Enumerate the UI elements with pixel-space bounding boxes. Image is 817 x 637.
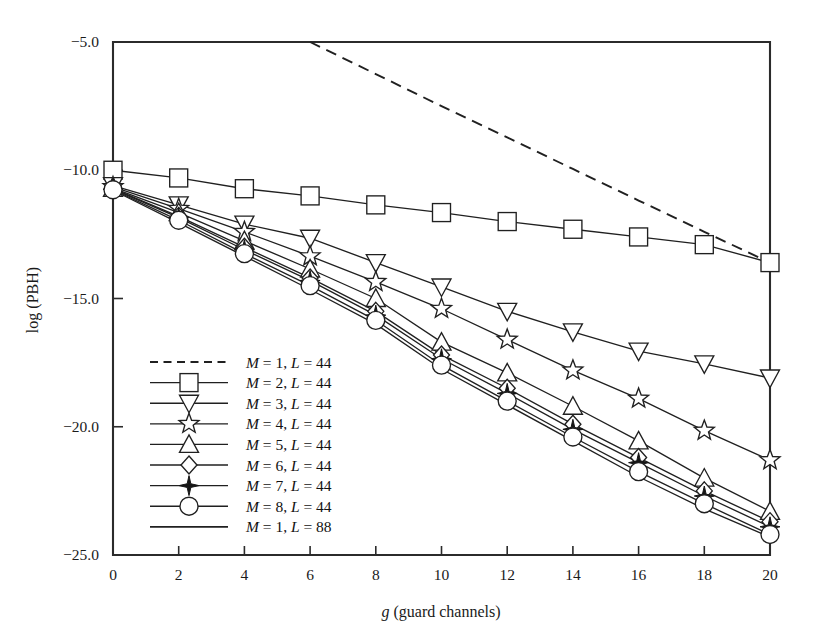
data-point-marker — [498, 392, 516, 410]
data-point-marker — [180, 497, 198, 515]
data-point-marker — [761, 525, 779, 543]
data-point-marker — [498, 213, 516, 231]
data-point-marker — [367, 196, 385, 214]
x-axis-tick-labels: 02468101214161820 — [109, 566, 778, 583]
data-point-marker — [497, 329, 517, 348]
data-point-marker — [629, 388, 649, 407]
x-tick-label: 0 — [109, 566, 117, 583]
data-point-marker — [181, 456, 197, 474]
data-point-marker — [695, 495, 713, 513]
data-point-marker — [180, 395, 199, 413]
legend-item: M = 4, L = 44 — [150, 413, 332, 432]
legend-item: M = 8, L = 44 — [150, 497, 332, 515]
y-tick-label: −15.0 — [63, 290, 99, 307]
line-chart: 02468101214161820 −5.0−10.0−15.0−20.0−25… — [0, 0, 817, 637]
x-tick-label: 2 — [175, 566, 183, 583]
x-tick-label: 18 — [697, 566, 713, 583]
data-point-marker — [564, 220, 582, 238]
x-tick-label: 20 — [762, 566, 778, 583]
x-tick-label: 10 — [434, 566, 450, 583]
legend-label: M = 7, L = 44 — [245, 477, 332, 494]
x-tick-label: 14 — [565, 566, 581, 583]
legend-label: M = 5, L = 44 — [245, 436, 332, 453]
series-line-4 — [113, 187, 770, 460]
data-point-marker — [366, 271, 386, 290]
y-axis-title: log (PBH) — [24, 267, 42, 333]
legend-item: M = 2, L = 44 — [150, 374, 332, 392]
data-point-marker — [629, 431, 648, 449]
data-point-marker — [179, 476, 199, 496]
x-axis-title: g (guard channels) — [381, 603, 500, 621]
legend-label: M = 8, L = 44 — [245, 498, 332, 515]
data-point-marker — [104, 181, 122, 199]
legend-label: M = 2, L = 44 — [245, 374, 332, 391]
data-point-marker — [235, 180, 253, 198]
data-point-marker — [170, 169, 188, 187]
data-point-marker — [563, 360, 583, 379]
legend-label: M = 1, L = 88 — [245, 518, 332, 535]
x-axis-ticks — [179, 546, 705, 555]
x-tick-label: 6 — [306, 566, 314, 583]
data-point-marker — [563, 397, 582, 415]
legend-label: M = 4, L = 44 — [245, 415, 332, 432]
y-tick-label: −20.0 — [63, 418, 99, 435]
data-point-marker — [761, 370, 780, 388]
data-point-marker — [367, 311, 385, 329]
data-point-marker — [432, 279, 451, 297]
data-point-marker — [761, 254, 779, 272]
data-point-marker — [301, 187, 319, 205]
chart-legend: M = 1, L = 44M = 2, L = 44M = 3, L = 44M… — [150, 354, 332, 536]
data-point-marker — [433, 356, 451, 374]
data-point-marker — [170, 211, 188, 229]
data-point-marker — [564, 428, 582, 446]
y-axis-ticks — [113, 170, 123, 427]
y-tick-label: −10.0 — [63, 161, 99, 178]
x-tick-label: 4 — [241, 566, 249, 583]
legend-item: M = 3, L = 44 — [150, 395, 332, 413]
x-tick-label: 16 — [631, 566, 647, 583]
x-tick-label: 8 — [372, 566, 380, 583]
x-tick-label: 12 — [499, 566, 515, 583]
data-point-marker — [498, 303, 517, 321]
data-point-marker — [180, 374, 198, 392]
data-point-marker — [235, 245, 253, 263]
y-tick-label: −5.0 — [71, 33, 99, 50]
series-line-1 — [310, 42, 770, 263]
legend-item: M = 1, L = 44 — [150, 354, 332, 371]
data-point-marker — [432, 298, 452, 317]
data-point-marker — [180, 435, 199, 453]
data-point-marker — [695, 236, 713, 254]
y-tick-label: −25.0 — [63, 546, 99, 563]
legend-item: M = 6, L = 44 — [150, 456, 332, 474]
legend-item: M = 5, L = 44 — [150, 435, 332, 453]
legend-label: M = 1, L = 44 — [245, 354, 332, 371]
data-point-marker — [630, 228, 648, 246]
data-point-marker — [433, 204, 451, 222]
data-point-marker — [694, 420, 714, 439]
y-axis-tick-labels: −5.0−10.0−15.0−20.0−25.0 — [63, 33, 99, 563]
data-point-marker — [301, 277, 319, 295]
legend-label: M = 3, L = 44 — [245, 395, 332, 412]
legend-label: M = 6, L = 44 — [245, 457, 332, 474]
legend-item: M = 1, L = 88 — [150, 518, 332, 535]
data-point-marker — [630, 463, 648, 481]
data-point-marker — [563, 324, 582, 342]
chart-figure: 02468101214161820 −5.0−10.0−15.0−20.0−25… — [0, 0, 817, 637]
legend-item: M = 7, L = 44 — [150, 476, 332, 496]
data-point-marker — [179, 413, 199, 432]
